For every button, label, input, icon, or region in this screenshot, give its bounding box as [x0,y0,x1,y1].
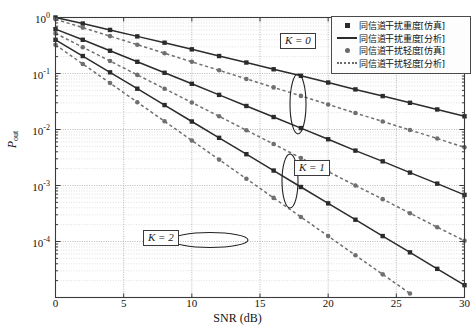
y-tick-label: 10-3 [14,179,50,193]
series-marker [162,71,166,75]
series-marker [381,234,385,238]
chart-legend: 同信道干扰重度[仿真] 同信道干扰重度[分析] 同信道干扰轻度[仿真] 同信道干… [331,16,471,74]
series-marker [435,107,439,111]
dashed-line-icon [335,57,359,69]
series-marker [108,70,112,74]
series-marker [353,253,358,258]
series-marker [81,21,85,25]
series-marker [435,136,440,141]
series-marker [135,73,140,78]
series-marker [217,114,222,119]
series-marker [299,185,303,189]
series-marker [108,59,113,64]
series-marker [353,87,357,91]
series-marker [326,234,331,239]
series-marker [381,94,385,98]
y-tick-label: 100 [14,11,50,25]
series-marker [271,142,276,147]
series-marker [408,101,412,105]
series-marker [435,267,439,271]
annotation-ellipse-2 [172,233,248,248]
series-marker [244,77,249,82]
annotation-ellipse-0 [290,74,306,134]
series-marker [353,183,358,188]
series-marker [81,38,85,42]
series-marker [190,119,194,123]
series-marker [135,60,139,64]
series-marker [217,68,222,73]
series-marker [162,40,166,44]
series-marker [108,28,112,32]
x-tick-label: 10 [186,297,197,309]
legend-item-light-analysis[interactable]: 同信道干扰轻度[分析] [335,57,467,69]
series-marker [80,25,85,30]
x-tick-label: 30 [459,297,470,309]
series-marker [299,94,304,99]
annotation-k0: K = 0 [280,33,316,49]
series-marker [162,103,166,107]
x-tick-label: 5 [121,297,127,309]
x-axis-title: SNR (dB) [0,311,475,326]
series-marker [190,82,194,86]
series-marker [135,100,140,105]
series-marker [162,119,167,124]
square-marker-icon [335,20,359,32]
series-marker [244,60,248,64]
x-tick-label: 0 [53,297,59,309]
series-marker [408,211,413,216]
series-marker [108,49,112,53]
series-marker [135,42,140,47]
legend-label-heavy-sim: 同信道干扰重度[仿真] [359,19,445,32]
annotation-k2: K = 2 [143,230,179,246]
legend-item-heavy-sim[interactable]: 同信道干扰重度[仿真] [335,20,467,32]
y-tick-label: 10-1 [14,67,50,81]
series-marker [408,250,412,254]
series-marker [244,152,248,156]
series-marker [271,67,275,71]
series-marker [380,272,385,277]
series-marker [108,81,113,86]
series-marker [353,218,357,222]
series-marker [80,62,85,67]
series-marker [108,34,113,39]
series-marker [190,59,195,64]
series-marker [80,45,85,50]
series-marker [408,128,413,133]
series-marker [135,87,139,91]
series-marker [408,291,413,296]
x-tick-label: 20 [323,297,334,309]
series-marker [435,181,439,185]
legend-item-light-sim[interactable]: 同信道干扰轻度[仿真] [335,45,467,57]
series-marker [217,93,221,97]
circle-marker-icon [335,45,359,57]
series-marker [381,159,385,163]
series-marker [326,80,330,84]
series-marker [190,47,194,51]
legend-label-light-analysis: 同信道干扰轻度[分析] [359,57,445,70]
chart-figure: 05101520253010010-110-210-310-4 SNR (dB)… [0,0,475,334]
annotation-k1: K = 1 [294,160,330,176]
series-marker [81,54,85,58]
y-axis-title-base: P [5,141,19,148]
series-marker [217,157,222,162]
series-marker [244,104,248,108]
legend-label-heavy-analysis: 同信道干扰重度[分析] [359,32,445,45]
series-marker [326,201,330,205]
legend-label-light-sim: 同信道干扰轻度[仿真] [359,44,445,57]
y-axis-title: Pout [5,130,20,150]
series-marker [326,137,330,141]
series-marker [271,115,275,119]
series-marker [190,100,195,105]
series-marker [408,170,412,174]
series-marker [217,54,221,58]
y-tick-label: 10-4 [14,235,50,249]
series-marker [353,111,358,116]
series-marker [380,197,385,202]
series-marker [380,119,385,124]
series-marker [353,148,357,152]
legend-item-heavy-analysis[interactable]: 同信道干扰重度[分析] [335,32,467,44]
series-marker [271,168,275,172]
series-marker [299,215,304,220]
series-marker [435,225,440,230]
series-marker [271,196,276,201]
